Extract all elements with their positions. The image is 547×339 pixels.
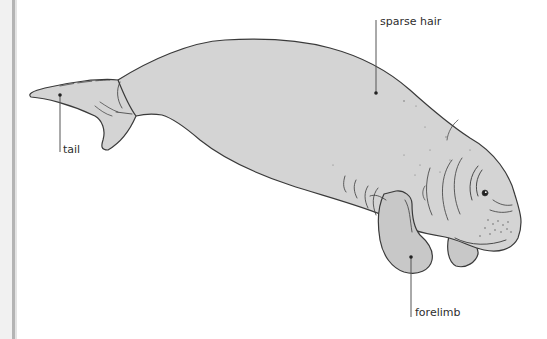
eye xyxy=(482,190,488,196)
forelimb-dot xyxy=(409,255,413,259)
sparse-hair-dot xyxy=(374,91,378,95)
label-sparse-hair: sparse hair xyxy=(380,16,441,28)
dugong-body xyxy=(30,39,521,273)
tail-dot xyxy=(58,93,62,97)
label-forelimb: forelimb xyxy=(415,307,460,319)
tail-fluke xyxy=(30,79,136,150)
label-tail: tail xyxy=(63,144,80,156)
body xyxy=(118,39,521,251)
dugong-illustration xyxy=(0,0,547,339)
